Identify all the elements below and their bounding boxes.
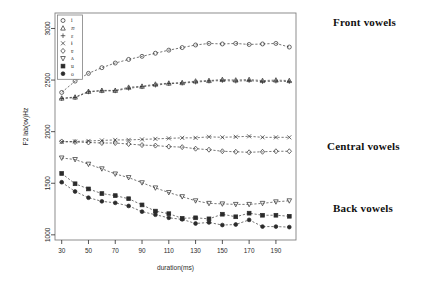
data-point-marker <box>127 197 131 201</box>
data-series-8 <box>60 180 291 229</box>
data-point-marker <box>100 199 104 203</box>
series-line <box>62 81 290 99</box>
data-point-marker <box>87 196 91 200</box>
y-axis-tick-label: 2000 <box>44 124 51 139</box>
data-point-marker <box>140 210 144 214</box>
data-point-marker <box>261 213 265 217</box>
data-point-marker <box>261 225 265 229</box>
series-line <box>62 173 290 218</box>
data-point-marker <box>100 192 104 196</box>
chart-figure: 10001500200025003000F2 lab(ov)Hz30507090… <box>0 0 441 284</box>
data-point-marker <box>220 212 224 216</box>
data-series-3 <box>59 78 291 101</box>
legend-label: æ <box>71 25 75 31</box>
x-axis-tick-label: 70 <box>112 247 120 254</box>
data-point-marker <box>194 222 198 226</box>
data-point-marker <box>127 204 131 208</box>
x-axis-tick-label: 130 <box>190 247 201 254</box>
data-point-marker <box>207 217 211 221</box>
x-axis-title: duration(ms) <box>157 264 194 272</box>
series-line <box>62 158 290 204</box>
data-point-marker <box>86 162 91 166</box>
data-point-marker <box>100 66 104 70</box>
data-point-marker <box>194 216 198 220</box>
legend-label: ʌ <box>71 55 74 61</box>
y-axis-title: F2 lab(ov)Hz <box>22 108 30 146</box>
back-vowels-annotation: Back vowels <box>333 202 393 214</box>
data-point-marker <box>154 213 158 217</box>
x-axis-tick-label: 50 <box>85 247 93 254</box>
data-point-marker <box>247 211 251 215</box>
data-point-marker <box>247 218 251 222</box>
data-point-marker <box>113 201 117 205</box>
data-point-marker <box>60 172 64 176</box>
series-line <box>62 136 290 142</box>
data-point-marker <box>61 72 65 76</box>
data-point-marker <box>220 223 224 227</box>
data-series-2 <box>59 77 291 100</box>
y-axis-tick-label: 3000 <box>44 21 51 36</box>
data-point-marker <box>287 45 291 49</box>
series-line <box>62 80 290 99</box>
x-axis-tick-label: 170 <box>244 247 255 254</box>
data-point-marker <box>87 187 91 191</box>
data-series-7 <box>60 172 291 221</box>
data-point-marker <box>234 215 238 219</box>
front-vowels-annotation: Front vowels <box>333 16 396 28</box>
y-axis-tick-label: 1000 <box>44 227 51 242</box>
x-axis-tick-label: 110 <box>164 247 175 254</box>
data-point-marker <box>274 225 278 229</box>
central-vowels-annotation: Central vowels <box>327 140 400 152</box>
y-axis-tick-label: 1500 <box>44 176 51 191</box>
legend-label: o <box>71 71 74 77</box>
data-point-marker <box>167 216 171 220</box>
data-point-marker <box>60 180 64 184</box>
data-point-marker <box>167 212 171 216</box>
data-point-marker <box>113 194 117 198</box>
y-axis-tick-label: 2500 <box>44 73 51 88</box>
x-axis-tick-label: 150 <box>217 247 228 254</box>
data-point-marker <box>73 190 77 194</box>
legend-label: u <box>71 63 74 69</box>
series-line <box>62 182 290 227</box>
data-point-marker <box>207 221 211 225</box>
data-point-marker <box>234 223 238 227</box>
data-series-1 <box>60 41 292 94</box>
series-line <box>62 141 290 152</box>
data-point-marker <box>140 203 144 207</box>
legend-box <box>58 15 83 79</box>
x-axis-tick-label: 30 <box>58 247 66 254</box>
x-axis-tick-label: 90 <box>138 247 146 254</box>
data-series-5 <box>59 139 291 155</box>
x-axis-tick-label: 190 <box>271 247 282 254</box>
data-point-marker <box>180 217 184 221</box>
data-point-marker <box>274 213 278 217</box>
data-point-marker <box>287 225 291 229</box>
data-point-marker <box>287 214 291 218</box>
legend: iæɛɨɐʌuo <box>58 15 83 79</box>
data-point-marker <box>73 182 77 186</box>
data-point-marker <box>61 64 65 68</box>
plot-frame <box>55 13 296 240</box>
data-point-marker <box>154 209 158 213</box>
series-line <box>62 43 290 92</box>
data-point-marker <box>153 186 158 190</box>
